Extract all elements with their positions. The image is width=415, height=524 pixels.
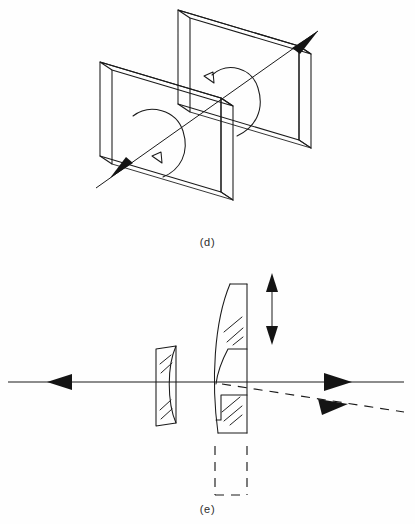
ghost-lens-outline: [215, 446, 247, 495]
figure-root: (d): [0, 0, 415, 524]
rotation-axis: [96, 31, 318, 188]
panel-d-caption: (d): [0, 236, 415, 248]
output-ray-undeviated: [324, 373, 352, 391]
translation-arrow: [266, 273, 278, 345]
panel-e-caption: (e): [0, 503, 415, 515]
negative-lens: [156, 346, 176, 426]
plate-rear: [178, 10, 311, 148]
positive-lens-displaced: [214, 284, 247, 433]
panel-e-diagram: [0, 260, 415, 524]
output-ray-deviated: [222, 384, 404, 415]
input-ray-arrow: [47, 374, 72, 390]
panel-d-diagram: [0, 0, 415, 250]
